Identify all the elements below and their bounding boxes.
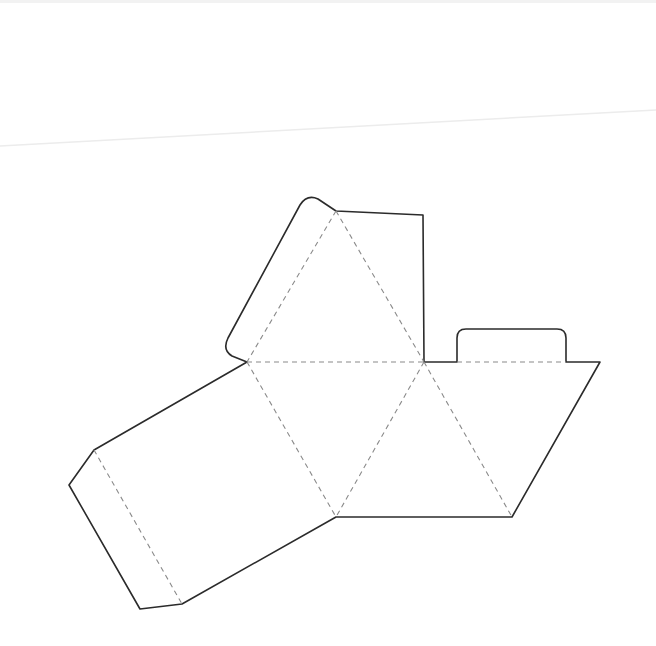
fold-center-left — [247, 362, 336, 517]
fold-top-triangle-right — [336, 211, 424, 362]
fold-lines — [94, 211, 566, 604]
pyramid-net-diagram — [0, 0, 656, 646]
cut-outline — [69, 197, 600, 609]
paper-sheet — [0, 0, 656, 646]
fold-right-triangle — [424, 362, 512, 517]
fold-top-triangle-left — [247, 211, 336, 362]
fold-center-right — [336, 362, 424, 517]
fold-left-end-flap — [94, 450, 182, 604]
